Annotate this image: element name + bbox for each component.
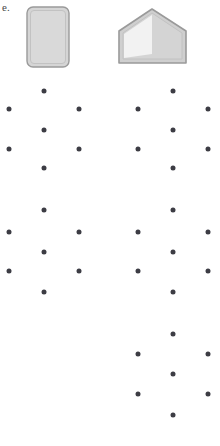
lattice-dot (42, 250, 47, 255)
lattice-dot (171, 208, 176, 213)
lattice-dot (171, 250, 176, 255)
lattice-dot (136, 230, 141, 235)
lattice-dot (206, 147, 211, 152)
lattice-dot (7, 147, 12, 152)
lattice-dot (7, 269, 12, 274)
lattice-dot (171, 128, 176, 133)
lattice-dot (77, 230, 82, 235)
lattice-dot (42, 208, 47, 213)
lattice-dot (77, 107, 82, 112)
lattice-dot (7, 107, 12, 112)
lattice-dot (136, 107, 141, 112)
lattice-dot (136, 392, 141, 397)
lattice-dot (136, 147, 141, 152)
lattice-dot (171, 413, 176, 418)
lattice-dot (171, 290, 176, 295)
lattice-dot (42, 128, 47, 133)
lattice-dot (206, 269, 211, 274)
lattice-dot (7, 230, 12, 235)
dot-lattice-field (0, 0, 220, 446)
lattice-dot (136, 352, 141, 357)
lattice-dot (77, 147, 82, 152)
lattice-dot (77, 269, 82, 274)
lattice-dot (206, 392, 211, 397)
lattice-dot (171, 166, 176, 171)
lattice-dot (171, 89, 176, 94)
lattice-dot (42, 290, 47, 295)
lattice-dot (171, 372, 176, 377)
lattice-dot (206, 230, 211, 235)
figure-panel: e. (0, 0, 220, 446)
lattice-dot (42, 166, 47, 171)
lattice-dot (206, 352, 211, 357)
lattice-dot (206, 107, 211, 112)
lattice-dot (42, 89, 47, 94)
lattice-dot (136, 269, 141, 274)
lattice-dot (171, 332, 176, 337)
